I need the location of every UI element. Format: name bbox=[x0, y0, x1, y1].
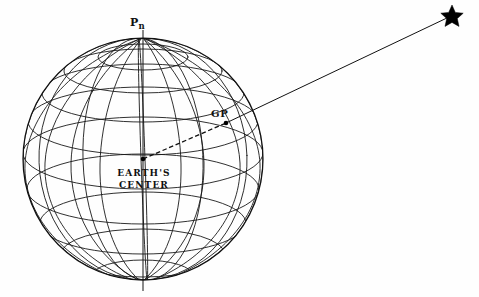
earths-center-label-line1: EARTH'S bbox=[101, 168, 187, 180]
earths-center-label-line2: CENTER bbox=[101, 180, 187, 192]
meridian-front-left2 bbox=[100, 38, 142, 281]
meridian-front-right bbox=[143, 38, 204, 281]
gp-point-dot-icon bbox=[224, 121, 229, 126]
center-to-gp-dashed-line bbox=[143, 123, 226, 159]
meridian-edge-left bbox=[25, 39, 140, 284]
north-pole-label: Pn bbox=[130, 16, 145, 31]
diagram-canvas: Pn GP EARTH'S CENTER bbox=[0, 0, 479, 297]
earths-center-label: EARTH'S CENTER bbox=[101, 168, 187, 191]
meridian-limb-right bbox=[144, 38, 240, 282]
meridian-edge-right bbox=[145, 39, 260, 284]
earths-center-point-dot-icon bbox=[141, 157, 146, 162]
star-icon bbox=[441, 5, 463, 26]
north-pole-label-subscript: n bbox=[139, 21, 145, 31]
globe-wireframe-svg bbox=[0, 0, 479, 297]
north-pole-label-text: P bbox=[130, 16, 139, 29]
gp-label: GP bbox=[211, 108, 228, 119]
gp-to-star-ray-line bbox=[226, 17, 449, 123]
